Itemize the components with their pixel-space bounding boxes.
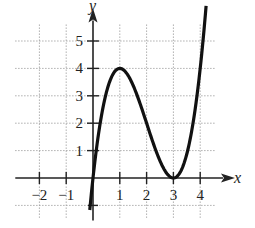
x-axis-arrow-icon [221,174,235,183]
function-curve [90,6,206,210]
x-tick-label: 4 [196,187,204,203]
function-graph: −2−1123412345 x y [0,0,255,228]
y-tick-label: 5 [76,33,84,49]
x-tick-label: −2 [31,187,47,203]
x-tick-label: 3 [170,187,178,203]
x-axis-label: x [233,169,241,186]
y-tick-label: 3 [76,88,84,104]
x-tick-label: 1 [116,187,124,203]
y-tick-label: 1 [76,143,84,159]
y-tick-label: 4 [76,60,84,76]
x-tick-label: −1 [58,187,74,203]
y-axis-label: y [87,0,97,15]
x-tick-label: 2 [143,187,151,203]
y-tick-label: 2 [76,115,84,131]
